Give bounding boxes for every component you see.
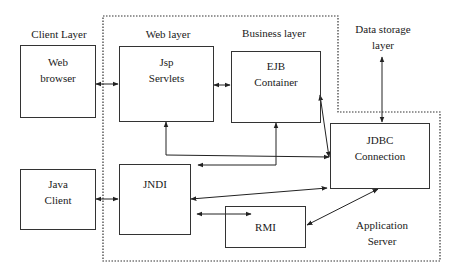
jdbc-connection-box: JDBC Connection: [330, 123, 430, 189]
arrow-ejb-jndi: [198, 123, 276, 165]
rmi-label: RMI: [226, 220, 305, 235]
arrow-jndi-jdbc: [191, 188, 327, 199]
jdbc-connection-line2: Connection: [331, 149, 429, 164]
arrow-ejb-jdbc: [320, 95, 329, 157]
ejb-container-box: EJB Container: [231, 51, 321, 123]
jsp-servlets-line2: Servlets: [120, 71, 213, 86]
business-layer-label: Business layer: [232, 27, 316, 40]
application-server-line2: Server: [349, 235, 415, 248]
arrow-servlets-jdbc: [166, 122, 329, 157]
jndi-box: JNDI: [119, 164, 191, 235]
ejb-container-line1: EJB: [232, 59, 320, 74]
application-server-label: Application Server: [349, 219, 415, 248]
web-browser-line2: browser: [21, 71, 95, 86]
java-client-box: Java Client: [20, 169, 96, 230]
jsp-servlets-line1: Jsp: [120, 55, 213, 70]
web-browser-box: Web browser: [20, 45, 96, 118]
client-layer-label: Client Layer: [20, 28, 98, 41]
ejb-container-line2: Container: [232, 75, 320, 90]
jsp-servlets-box: Jsp Servlets: [119, 46, 214, 122]
java-client-line2: Client: [21, 193, 95, 208]
data-storage-line2: layer: [352, 39, 414, 52]
data-storage-line1: Data storage: [352, 23, 414, 36]
jndi-label: JNDI: [120, 177, 190, 192]
application-server-line1: Application: [349, 219, 415, 232]
data-storage-layer-label: Data storage layer: [352, 23, 414, 52]
web-browser-line1: Web: [21, 55, 95, 70]
java-client-line1: Java: [21, 177, 95, 192]
web-layer-label: Web layer: [128, 28, 208, 41]
rmi-box: RMI: [225, 206, 306, 248]
jdbc-connection-line1: JDBC: [331, 133, 429, 148]
